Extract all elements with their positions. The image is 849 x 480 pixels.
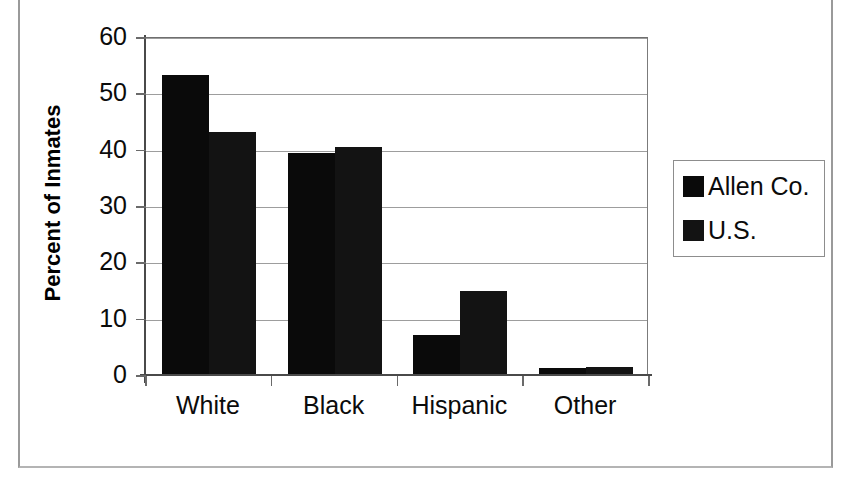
legend-item-allen-co: Allen Co. [683,174,809,199]
x-axis-tick-mark [145,376,147,386]
legend-label: U.S. [708,218,757,243]
chart-legend: Allen Co.U.S. [673,160,825,257]
x-axis-tick-mark [271,376,273,386]
x-axis-tick-label-other: Other [485,393,685,418]
bar-white-u-s [209,132,256,374]
y-axis-tick-label: 40 [67,137,127,162]
legend-label: Allen Co. [708,174,809,199]
y-axis-tick-mark [136,206,146,208]
bar-hispanic-allen-co [413,335,460,374]
y-axis-tick-mark [136,262,146,264]
plot-area [145,37,648,375]
legend-item-u-s: U.S. [683,218,757,243]
gridline [146,94,647,95]
y-axis-tick-label: 0 [67,362,127,387]
y-axis-line [144,35,146,383]
bar-white-allen-co [162,75,209,374]
bar-black-allen-co [288,153,335,374]
y-axis-tick-label: 60 [67,24,127,49]
legend-swatch-icon [683,176,704,197]
bar-black-u-s [335,147,382,374]
x-axis-tick-mark [648,376,650,386]
y-axis-tick-label: 30 [67,193,127,218]
y-axis-tick-label: 10 [67,306,127,331]
legend-swatch-icon [683,220,704,241]
gridline [146,38,647,39]
bar-hispanic-u-s [460,291,507,374]
y-axis-tick-label: 20 [67,249,127,274]
bar-chart: Percent of Inmates 0102030405060 WhiteBl… [0,0,849,480]
bar-other-u-s [586,367,633,374]
y-axis-tick-mark [136,150,146,152]
x-axis-tick-mark [522,376,524,386]
y-axis-title: Percent of Inmates [40,53,66,353]
y-axis-tick-mark [136,37,146,39]
y-axis-tick-mark [136,319,146,321]
y-axis-tick-mark [136,93,146,95]
caption-sliver [22,471,442,480]
x-axis-tick-mark [397,376,399,386]
y-axis-tick-label: 50 [67,80,127,105]
